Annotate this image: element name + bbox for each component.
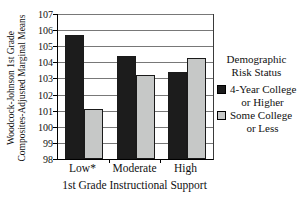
bar-series2-moderate xyxy=(136,75,155,159)
legend-title-line1: Demographic xyxy=(212,53,301,66)
y-tick-mark xyxy=(53,143,57,144)
y-tick-mark xyxy=(53,111,57,112)
y-tick-mark xyxy=(53,127,57,128)
legend-label-line2: or Higher xyxy=(212,96,301,109)
y-tick-mark xyxy=(53,30,57,31)
x-category-label: Low* xyxy=(57,162,108,174)
y-axis-title-line1: Woodcock-Johnson 1st Grade xyxy=(6,0,17,178)
legend-title: Demographic Risk Status xyxy=(212,53,301,79)
bar-chart: Woodcock-Johnson 1st Grade Composites-Ad… xyxy=(0,0,301,208)
y-tick-label: 103 xyxy=(29,73,53,84)
x-axis-title: 1st Grade Instructional Support xyxy=(47,179,222,191)
x-tick-mark xyxy=(109,160,110,163)
legend-label-line1: 4-Year College xyxy=(230,83,296,96)
bar-series1-high xyxy=(168,72,187,159)
y-tick-label: 102 xyxy=(29,90,53,101)
y-tick-label: 98 xyxy=(29,154,53,165)
y-tick-mark xyxy=(53,95,57,96)
y-tick-label: 106 xyxy=(29,25,53,36)
bar-series1-moderate xyxy=(117,56,136,159)
x-tick-mark xyxy=(160,160,161,163)
gridline xyxy=(58,30,213,31)
legend-label-line1: Some College xyxy=(230,109,292,122)
y-tick-label: 104 xyxy=(29,57,53,68)
bar-series2-high xyxy=(187,58,206,159)
y-tick-mark xyxy=(53,62,57,63)
y-tick-mark xyxy=(53,46,57,47)
legend-entry: 4-Year Collegeor Higher xyxy=(212,83,301,109)
y-tick-mark xyxy=(53,159,57,160)
legend: Demographic Risk Status 4-Year Collegeor… xyxy=(212,53,301,135)
y-tick-label: 99 xyxy=(29,138,53,149)
legend-swatch-icon xyxy=(217,85,226,94)
y-axis-title-line2: Composites-Adjusted Marginal Means xyxy=(17,0,28,178)
y-tick-mark xyxy=(53,14,57,15)
x-category-label: Moderate xyxy=(109,162,160,174)
y-tick-label: 107 xyxy=(29,9,53,20)
y-axis-title: Woodcock-Johnson 1st Grade Composites-Ad… xyxy=(6,0,28,178)
legend-title-line2: Risk Status xyxy=(212,66,301,79)
legend-entry: Some Collegeor Less xyxy=(212,109,301,135)
legend-swatch-icon xyxy=(217,111,226,120)
y-tick-label: 105 xyxy=(29,41,53,52)
legend-label-line2: or Less xyxy=(212,122,301,135)
x-category-label: High xyxy=(160,162,211,174)
y-tick-label: 100 xyxy=(29,122,53,133)
y-tick-label: 101 xyxy=(29,106,53,117)
bar-series2-low xyxy=(84,109,103,159)
legend-entries: 4-Year Collegeor HigherSome Collegeor Le… xyxy=(212,83,301,135)
plot-area xyxy=(57,14,214,160)
gridline xyxy=(58,14,213,15)
y-tick-mark xyxy=(53,78,57,79)
bar-series1-low xyxy=(65,35,84,159)
